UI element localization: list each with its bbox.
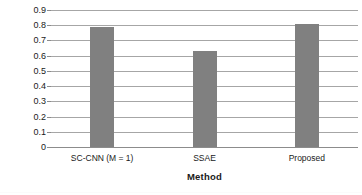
y-tick-mark (47, 71, 51, 72)
y-tick-mark (47, 147, 51, 148)
y-tick-label: 0.5 (20, 67, 46, 76)
y-tick-mark (47, 10, 51, 11)
y-tick-mark (47, 132, 51, 133)
y-axis-tick-labels: 0.90.80.70.60.50.40.30.20.10 (18, 0, 46, 195)
x-axis-baseline (51, 147, 358, 148)
bar-chart: F1 Score 0.90.80.70.60.50.40.30.20.10 SC… (0, 0, 362, 195)
y-tick-mark (47, 56, 51, 57)
bar (90, 27, 114, 147)
y-tick-mark (47, 117, 51, 118)
bar (193, 51, 217, 147)
y-tick-label: 0.4 (20, 82, 46, 91)
plot-area (51, 10, 358, 147)
y-tick-mark (47, 40, 51, 41)
y-tick-label: 0.7 (20, 36, 46, 45)
x-axis-title: Method (51, 171, 358, 182)
y-tick-label: 0.8 (20, 21, 46, 30)
y-tick-mark (47, 101, 51, 102)
gridline (51, 10, 358, 11)
y-tick-label: 0.2 (20, 113, 46, 122)
y-tick-mark (47, 25, 51, 26)
y-tick-label: 0 (20, 143, 46, 152)
x-tick-label: Proposed (247, 153, 362, 163)
y-tick-label: 0.9 (20, 6, 46, 15)
y-tick-label: 0.1 (20, 128, 46, 137)
y-tick-label: 0.6 (20, 52, 46, 61)
page-edge (0, 192, 362, 193)
bar (295, 24, 319, 147)
y-tick-mark (47, 86, 51, 87)
y-tick-label: 0.3 (20, 97, 46, 106)
